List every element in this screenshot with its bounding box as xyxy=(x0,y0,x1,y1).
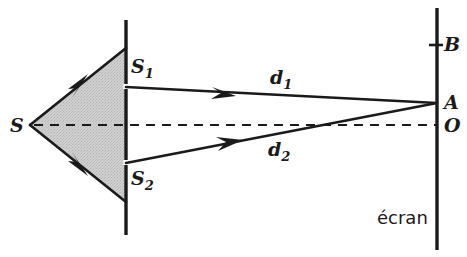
label-source-s: S xyxy=(10,116,24,135)
label-slit-s2-base: S xyxy=(131,167,145,189)
optics-ray-diagram: S S1 S2 d1 d2 A B O écran xyxy=(0,0,467,257)
label-slit-s2: S2 xyxy=(131,169,154,192)
label-path-d2-base: d xyxy=(268,138,281,160)
label-point-b: B xyxy=(444,35,460,54)
label-path-d1-base: d xyxy=(270,66,283,88)
label-path-d2: d2 xyxy=(268,140,290,163)
label-point-a: A xyxy=(444,93,459,112)
label-screen-ecran: écran xyxy=(377,209,428,227)
label-slit-s2-subscript: 2 xyxy=(145,178,154,193)
beam-cone-shape xyxy=(30,48,126,202)
label-point-o: O xyxy=(444,116,461,135)
label-slit-s1-base: S xyxy=(131,55,145,77)
label-slit-s1-subscript: 1 xyxy=(145,66,154,81)
label-path-d1-subscript: 1 xyxy=(283,77,292,92)
label-path-d2-subscript: 2 xyxy=(281,149,290,164)
label-slit-s1: S1 xyxy=(131,57,154,80)
label-path-d1: d1 xyxy=(270,68,292,91)
